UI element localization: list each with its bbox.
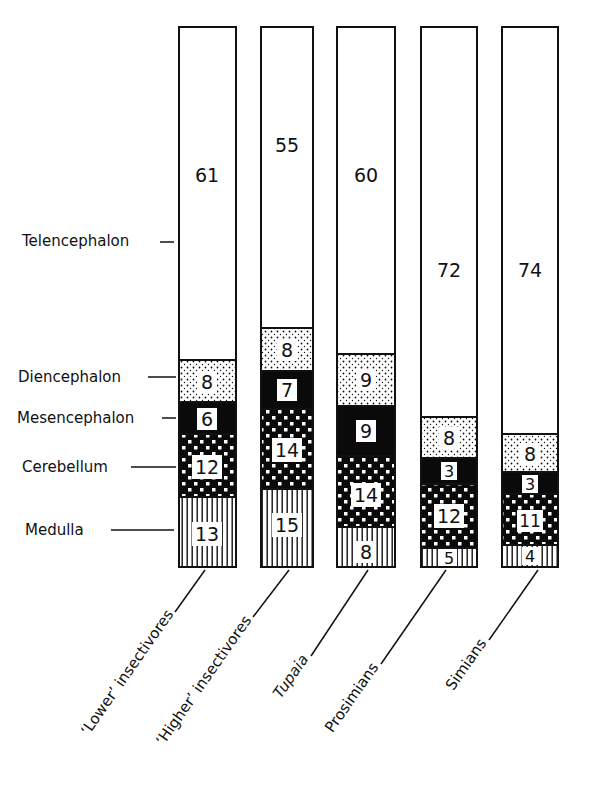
leader-line — [311, 570, 368, 656]
value-mesencephalon: 7 — [281, 379, 293, 401]
value-mesencephalon: 9 — [360, 420, 372, 442]
legend-cerebellum: Cerebellum — [22, 458, 108, 476]
segment-telencephalon — [337, 27, 395, 354]
value-medulla: 4 — [525, 547, 535, 566]
value-mesencephalon: 3 — [444, 462, 454, 481]
segment-telencephalon — [421, 27, 477, 417]
category-label-prosimians: Prosimians — [321, 659, 382, 736]
value-diencephalon: 8 — [201, 371, 213, 393]
value-telencephalon: 72 — [437, 259, 461, 281]
segment-telencephalon — [179, 27, 236, 360]
legend-medulla: Medulla — [25, 521, 84, 539]
bar-higher-insectivores: 55 8 7 14 15 — [261, 27, 313, 567]
segment-telencephalon — [502, 27, 558, 434]
value-cerebellum: 12 — [437, 505, 461, 527]
value-mesencephalon: 6 — [201, 408, 213, 430]
value-medulla: 15 — [275, 514, 299, 536]
segment-telencephalon — [261, 27, 313, 328]
value-telencephalon: 61 — [195, 164, 219, 186]
value-cerebellum: 14 — [354, 484, 378, 506]
value-mesencephalon: 3 — [525, 475, 535, 494]
bar-lower-insectivores: 61 8 6 12 13 — [179, 27, 236, 567]
category-label-lower-insectivores: ‘Lower’ insectivores — [77, 606, 177, 739]
leader-line — [253, 570, 289, 617]
value-telencephalon: 55 — [275, 134, 299, 156]
value-cerebellum: 12 — [195, 456, 219, 478]
stacked-bar-chart: 61 8 6 12 13 55 8 7 14 15 60 9 9 — [0, 0, 593, 807]
legend-telencephalon: Telencephalon — [21, 232, 129, 250]
value-telencephalon: 74 — [518, 259, 542, 281]
category-axis: ‘Lower’ insectivores ‘Higher’ insectivor… — [77, 570, 538, 749]
leader-line — [175, 570, 205, 612]
legend-mesencephalon: Mesencephalon — [17, 409, 134, 427]
legend-diencephalon: Diencephalon — [18, 368, 121, 386]
bar-tupaia: 60 9 9 14 8 — [337, 27, 395, 567]
category-label-tupaia: Tupaia — [269, 651, 312, 702]
bar-prosimians: 72 8 3 12 5 — [421, 27, 477, 568]
value-diencephalon: 9 — [360, 369, 372, 391]
category-label-higher-insectivores: ‘Higher’ insectivores — [152, 612, 255, 749]
value-medulla: 8 — [360, 541, 372, 563]
value-telencephalon: 60 — [354, 164, 378, 186]
bar-simians: 74 8 3 11 4 — [502, 27, 558, 567]
value-diencephalon: 8 — [443, 427, 455, 449]
value-cerebellum: 11 — [519, 511, 541, 531]
value-medulla: 13 — [195, 523, 219, 545]
legend: Telencephalon Diencephalon Mesencephalon… — [17, 232, 176, 539]
category-label-simians: Simians — [442, 635, 491, 694]
leader-line — [381, 570, 446, 664]
value-cerebellum: 14 — [275, 439, 299, 461]
leader-line — [489, 570, 538, 640]
value-diencephalon: 8 — [281, 339, 293, 361]
value-medulla: 5 — [444, 549, 454, 568]
value-diencephalon: 8 — [524, 443, 536, 465]
